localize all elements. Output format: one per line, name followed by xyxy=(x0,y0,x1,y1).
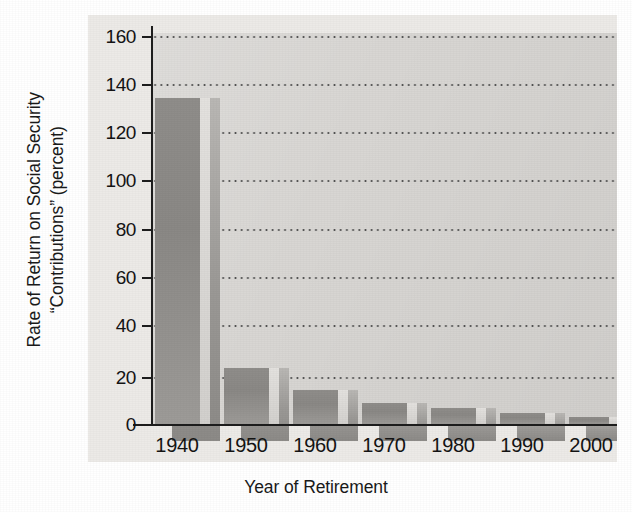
y-tick-label-20: 20 xyxy=(88,367,136,389)
x-tick-label-1950: 1950 xyxy=(211,434,281,457)
y-axis-title: Rate of Return on Social Security “Contr… xyxy=(6,15,86,425)
y-tick-20 xyxy=(142,377,153,379)
y-tick-label-80-box: 80 xyxy=(88,219,136,241)
x-axis-line xyxy=(133,424,617,426)
x-tick-label-1980: 1980 xyxy=(418,434,488,457)
gridline-100 xyxy=(152,180,617,182)
gridline-20 xyxy=(152,377,617,379)
y-tick-label-120-box: 120 xyxy=(88,122,136,144)
plot-area xyxy=(152,33,617,425)
y-tick-label-20-box: 20 xyxy=(88,367,136,389)
gridline-40 xyxy=(152,325,617,327)
gridline-80 xyxy=(152,229,617,231)
y-tick-label-60-box: 60 xyxy=(88,267,136,289)
y-tick-label-140-box: 140 xyxy=(88,74,136,96)
y-tick-label-100: 100 xyxy=(88,170,136,192)
y-tick-40 xyxy=(142,325,153,327)
x-tick-label-1970: 1970 xyxy=(349,434,419,457)
y-axis-title-line2: “Contributions” (percent) xyxy=(46,92,69,347)
gridline-120 xyxy=(152,132,617,134)
y-tick-label-0: 0 xyxy=(88,414,136,436)
y-tick-label-120: 120 xyxy=(88,122,136,144)
y-tick-140 xyxy=(142,84,153,86)
y-tick-label-40-box: 40 xyxy=(88,315,136,337)
y-axis-title-line1: Rate of Return on Social Security xyxy=(23,92,46,347)
x-tick-label-2000: 2000 xyxy=(556,434,626,457)
y-tick-100 xyxy=(142,180,153,182)
gridline-140 xyxy=(152,84,617,86)
y-tick-label-0-box: 0 xyxy=(88,414,136,436)
gridline-160 xyxy=(152,36,617,38)
y-tick-label-160-box: 160 xyxy=(88,26,136,48)
y-tick-160 xyxy=(142,36,153,38)
y-tick-label-40: 40 xyxy=(88,315,136,337)
y-tick-label-100-box: 100 xyxy=(88,170,136,192)
y-tick-label-160: 160 xyxy=(88,26,136,48)
y-tick-80 xyxy=(142,229,153,231)
y-tick-label-140: 140 xyxy=(88,74,136,96)
x-tick-label-1960: 1960 xyxy=(280,434,350,457)
gridline-60 xyxy=(152,277,617,279)
y-tick-label-60: 60 xyxy=(88,267,136,289)
x-tick-label-1990: 1990 xyxy=(487,434,557,457)
x-axis-title: Year of Retirement xyxy=(0,477,632,498)
y-tick-label-80: 80 xyxy=(88,219,136,241)
y-tick-60 xyxy=(142,277,153,279)
chart-figure: Rate of Return on Social Security “Contr… xyxy=(0,0,632,512)
x-tick-label-1940: 1940 xyxy=(142,434,212,457)
y-axis-line xyxy=(151,26,153,426)
y-tick-120 xyxy=(142,132,153,134)
